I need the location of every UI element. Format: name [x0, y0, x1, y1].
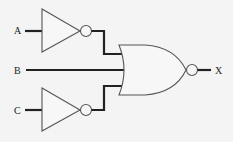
input-label-b: B — [14, 65, 21, 76]
output-label-x: X — [215, 65, 223, 76]
input-label-c: C — [14, 105, 21, 116]
not-gate-a — [42, 9, 92, 52]
wire-not-c-to-nor — [92, 86, 123, 110]
wire-not-a-to-nor — [92, 31, 123, 54]
logic-circuit-diagram: A B C X — [0, 0, 233, 142]
input-label-a: A — [14, 25, 22, 36]
nor-gate — [119, 45, 198, 95]
not-gate-c — [42, 88, 92, 131]
